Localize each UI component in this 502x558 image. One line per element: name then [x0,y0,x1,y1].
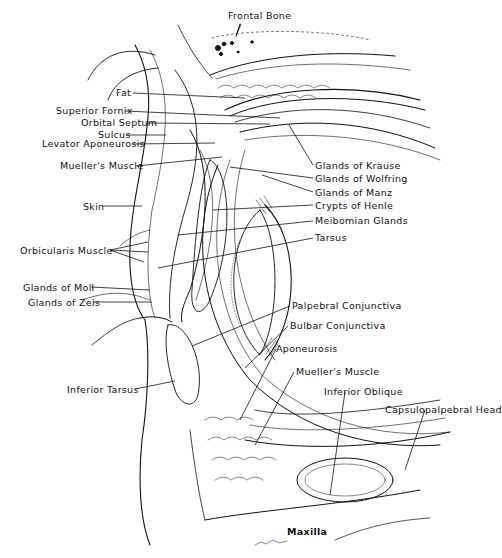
label-crypts-of-henle: Crypts of Henle [315,200,393,211]
label-glands-of-manz: Glands of Manz [315,187,392,198]
label-inferior-oblique: Inferior Oblique [324,386,403,397]
label-inferior-tarsus: Inferior Tarsus [67,384,139,395]
label-orbicularis-muscle: Orbicularis Muscle [20,245,113,256]
label-orbital-septum: Orbital Septum [81,117,157,128]
label-levator-aponeurosis: Levator Aponeurosis [42,138,145,149]
label-tarsus: Tarsus [315,232,347,243]
label-muellers-muscle-upper: Mueller's Muscle [60,160,143,171]
label-glands-of-moll: Glands of Moll [23,282,95,293]
lens-outline [234,210,275,355]
label-skin: Skin [83,201,104,212]
label-frontal-bone: Frontal Bone [228,10,291,21]
label-bulbar-conjunctiva: Bulbar Conjunctiva [290,320,386,331]
leader-lines [91,24,425,495]
label-muellers-muscle-lower: Mueller's Muscle [296,366,379,377]
label-capsulopalpebral-head: Capsulopalpebral Head [385,404,502,415]
label-glands-of-wolfring: Glands of Wolfring [315,173,408,184]
inferior-oblique-muscle [297,458,393,502]
label-fat: Fat [116,87,131,98]
cornea-outline [265,205,291,360]
label-glands-of-zeis: Glands of Zeis [28,297,100,308]
label-maxilla: Maxilla [287,526,327,537]
label-palpebral-conjunctiva: Palpebral Conjunctiva [292,300,402,311]
label-aponeurosis: Aponeurosis [276,343,338,354]
label-superior-fornix: Superior Fornix [56,105,133,116]
label-meibomian-glands: Meibomian Glands [315,215,408,226]
label-glands-of-krause: Glands of Krause [315,160,401,171]
frontal-bone-region [212,24,370,56]
